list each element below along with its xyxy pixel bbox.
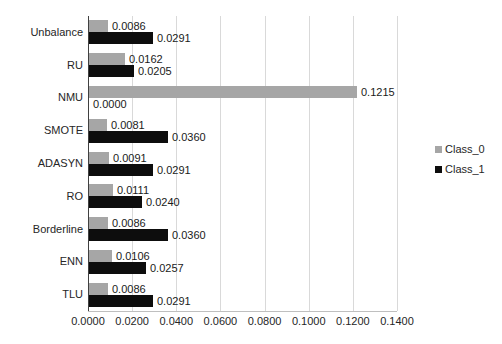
- legend-swatch-icon: [435, 166, 442, 173]
- bar-class_0: [89, 250, 112, 262]
- gridline: [353, 16, 354, 311]
- bar-class_1: [89, 164, 153, 176]
- value-label: 0.0091: [113, 152, 147, 164]
- gridline: [397, 16, 398, 311]
- value-label: 0.0291: [157, 164, 191, 176]
- bar-class_1: [89, 295, 153, 307]
- bar-class_1: [89, 229, 168, 241]
- x-tick-label: 0.1200: [336, 315, 370, 328]
- value-label: 0.0000: [93, 98, 127, 110]
- category-label: ADASYN: [0, 157, 83, 170]
- legend-item-class_1: Class_1: [435, 163, 485, 176]
- bar-class_0: [89, 283, 108, 295]
- value-label: 0.0086: [112, 217, 146, 229]
- bar-class_1: [89, 32, 153, 44]
- bar-class_0: [89, 119, 107, 131]
- value-label: 0.0162: [129, 53, 163, 65]
- x-tick-label: 0.0800: [248, 315, 282, 328]
- category-label: RO: [0, 190, 83, 203]
- value-label: 0.0291: [157, 295, 191, 307]
- x-tick-label: 0.0200: [115, 315, 149, 328]
- value-label: 0.0111: [117, 184, 149, 196]
- x-tick-label: 0.0000: [71, 315, 105, 328]
- x-tick-label: 0.1000: [292, 315, 326, 328]
- bar-class_0: [89, 53, 125, 65]
- gridline: [265, 16, 266, 311]
- bar-class_0: [89, 152, 109, 164]
- bar-class_1: [89, 196, 142, 208]
- bar-class_0: [89, 184, 113, 196]
- legend-label: Class_0: [445, 143, 485, 156]
- value-axis-line: [88, 311, 397, 312]
- category-label: NMU: [0, 91, 83, 104]
- legend-swatch-icon: [435, 146, 442, 153]
- x-tick-label: 0.0400: [159, 315, 193, 328]
- value-label: 0.0360: [172, 131, 206, 143]
- bar-chart: Class_0Class_1 Unbalance0.00860.0291RU0.…: [0, 0, 502, 344]
- bar-class_1: [89, 262, 146, 274]
- category-label: RU: [0, 59, 83, 72]
- value-label: 0.0291: [157, 32, 191, 44]
- bar-class_0: [89, 20, 108, 32]
- gridline: [309, 16, 310, 311]
- x-tick-label: 0.1400: [380, 315, 414, 328]
- value-label: 0.0086: [112, 283, 146, 295]
- value-label: 0.0081: [111, 119, 145, 131]
- legend-label: Class_1: [445, 163, 485, 176]
- legend-item-class_0: Class_0: [435, 143, 485, 156]
- category-label: Borderline: [0, 223, 83, 236]
- gridline: [220, 16, 221, 311]
- value-label: 0.0360: [172, 229, 206, 241]
- legend: Class_0Class_1: [435, 143, 485, 176]
- value-label: 0.0205: [138, 65, 172, 77]
- category-label: SMOTE: [0, 124, 83, 137]
- bar-class_1: [89, 65, 134, 77]
- bar-class_0: [89, 86, 357, 98]
- bar-class_1: [89, 131, 168, 143]
- bar-class_0: [89, 217, 108, 229]
- category-label: TLU: [0, 288, 83, 301]
- x-tick-label: 0.0600: [204, 315, 238, 328]
- category-label: Unbalance: [0, 26, 83, 39]
- value-label: 0.0106: [116, 250, 150, 262]
- value-label: 0.0257: [150, 262, 184, 274]
- value-label: 0.1215: [361, 86, 395, 98]
- value-label: 0.0240: [146, 196, 180, 208]
- category-label: ENN: [0, 255, 83, 268]
- value-label: 0.0086: [112, 20, 146, 32]
